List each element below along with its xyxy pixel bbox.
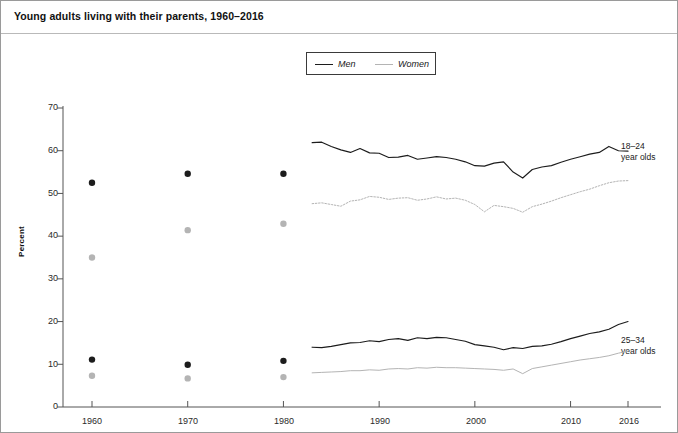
y-tick-marks: [57, 108, 63, 407]
decade-point-25-34-women-1980: [280, 374, 286, 380]
decade-point-25-34-women-1960: [89, 373, 95, 379]
decade-point-18-24-men-1960: [89, 180, 95, 186]
series-line-25-34-women: [312, 351, 628, 374]
decade-point-25-34-men-1980: [280, 358, 286, 364]
series-line-25-34-men: [312, 322, 628, 350]
decade-point-25-34-men-1960: [89, 356, 95, 362]
data-series-layer: [312, 142, 628, 374]
chart-figure: Young adults living with their parents, …: [0, 0, 678, 433]
series-line-18-24-men: [312, 142, 628, 178]
x-tick-marks: [92, 401, 628, 407]
series-line-18-24-women: [312, 181, 628, 213]
plot-area: [1, 1, 678, 433]
decade-point-25-34-women-1970: [185, 375, 191, 381]
decade-point-18-24-women-1980: [280, 221, 286, 227]
decade-points-layer: [89, 171, 287, 382]
decade-point-18-24-women-1970: [185, 227, 191, 233]
decade-point-25-34-men-1970: [185, 362, 191, 368]
decade-point-18-24-men-1980: [280, 171, 286, 177]
decade-point-18-24-women-1960: [89, 254, 95, 260]
decade-point-18-24-men-1970: [185, 171, 191, 177]
